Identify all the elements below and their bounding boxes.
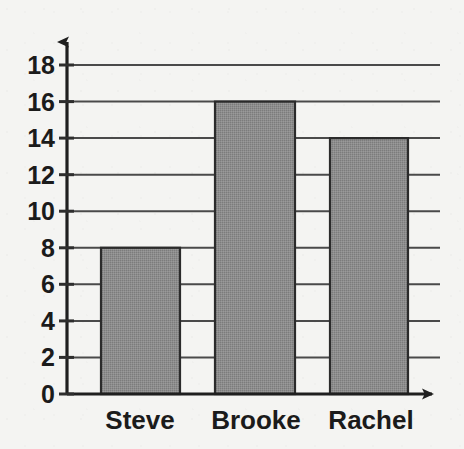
x-label-brooke: Brooke: [211, 405, 301, 435]
y-tick-label-12: 12: [27, 161, 55, 189]
bar-brooke[interactable]: [215, 102, 295, 394]
bar-steve[interactable]: [101, 248, 180, 394]
y-tick-label-4: 4: [41, 307, 55, 335]
chart-plot-area: 18 16 14 12 10 8 6 4 2 0 Steve Brooke Ra…: [0, 0, 464, 449]
y-tick-label-8: 8: [41, 234, 55, 262]
x-label-steve: Steve: [105, 405, 174, 435]
x-label-rachel: Rachel: [328, 405, 413, 435]
bar-rachel[interactable]: [330, 138, 408, 394]
y-tick-label-18: 18: [27, 51, 55, 79]
y-tick-label-6: 6: [41, 270, 55, 298]
bars-group: [101, 102, 408, 394]
bar-chart-figure: 18 16 14 12 10 8 6 4 2 0 Steve Brooke Ra…: [0, 0, 464, 449]
y-tick-label-16: 16: [27, 88, 55, 116]
y-tick-label-14: 14: [27, 124, 55, 152]
y-tick-label-0: 0: [41, 380, 55, 408]
y-tick-label-10: 10: [27, 197, 55, 225]
y-tick-labels-group: 18 16 14 12 10 8 6 4 2 0: [27, 51, 55, 408]
x-category-labels-group: Steve Brooke Rachel: [105, 405, 413, 435]
y-tick-label-2: 2: [41, 343, 55, 371]
